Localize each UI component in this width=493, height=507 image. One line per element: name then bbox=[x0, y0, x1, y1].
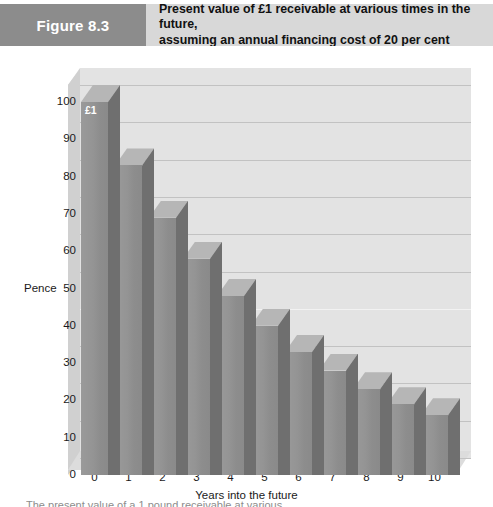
y-tick-label-10: 10 bbox=[42, 431, 76, 443]
y-tick-label-20: 20 bbox=[42, 393, 76, 405]
bar-side-face bbox=[380, 372, 392, 475]
bar-side-face bbox=[108, 85, 120, 475]
figure-title-line-1: Present value of £1 receivable at variou… bbox=[159, 2, 489, 33]
gridline-100 bbox=[80, 85, 471, 86]
y-tick-label-0: 0 bbox=[42, 468, 76, 480]
bar-side-face bbox=[312, 335, 324, 475]
y-tick-label-60: 60 bbox=[42, 244, 76, 256]
bar-front-face bbox=[81, 102, 108, 475]
bar-side-face bbox=[210, 242, 222, 475]
figure-caption: The present value of a 1 pound receivabl… bbox=[26, 499, 486, 507]
bar-side-face bbox=[278, 309, 290, 475]
y-tick-label-80: 80 bbox=[42, 170, 76, 182]
gridline-90 bbox=[80, 122, 471, 123]
y-tick-label-70: 70 bbox=[42, 207, 76, 219]
y-axis-label: Pence bbox=[24, 282, 57, 294]
chart-figure: £1 0102030405060708090100 012345678910 Y… bbox=[0, 46, 493, 507]
y-tick-label-90: 90 bbox=[42, 132, 76, 144]
bar-side-face bbox=[176, 201, 188, 475]
bar-year-0: £1 bbox=[81, 85, 108, 475]
bar-side-face bbox=[142, 148, 154, 475]
y-tick-label-30: 30 bbox=[42, 356, 76, 368]
figure-number-badge: Figure 8.3 bbox=[0, 4, 146, 46]
y-axis-ticks: 0102030405060708090100 bbox=[22, 46, 76, 507]
bar-side-face bbox=[346, 354, 358, 475]
bar-value-annotation: £1 bbox=[85, 104, 97, 116]
y-tick-label-40: 40 bbox=[42, 319, 76, 331]
bar-side-face bbox=[244, 279, 256, 475]
y-tick-label-100: 100 bbox=[42, 95, 76, 107]
figure-title: Present value of £1 receivable at variou… bbox=[159, 4, 489, 46]
figure-header: Figure 8.3 Present value of £1 receivabl… bbox=[0, 4, 493, 46]
